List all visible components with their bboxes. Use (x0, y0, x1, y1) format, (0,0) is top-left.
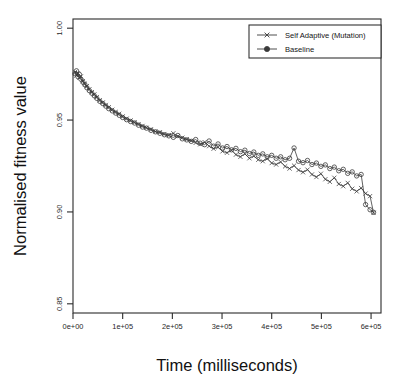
x-tick-label: 5e+05 (311, 322, 332, 331)
x-axis-title: Time (milliseconds) (156, 356, 298, 374)
y-axis-title: Normalised fitness value (11, 76, 29, 256)
x-tick-label: 3e+05 (212, 322, 233, 331)
legend-marker-circle-icon (264, 46, 269, 51)
y-tick-label: 0.85 (55, 297, 64, 311)
x-tick-label: 1e+05 (112, 322, 133, 331)
legend-item-label: Baseline (285, 45, 314, 54)
x-tick-label: 2e+05 (162, 322, 183, 331)
chart-figure: 0e+001e+052e+053e+054e+055e+056e+05 0.85… (0, 0, 405, 382)
y-tick-label: 0.95 (55, 113, 64, 127)
y-tick-label: 0.90 (55, 205, 64, 219)
chart-legend: Self Adaptive (Mutation)Baseline (249, 25, 381, 58)
x-tick-label: 0e+00 (63, 322, 84, 331)
y-tick-label: 1.00 (55, 21, 64, 35)
fitness-vs-time-line-chart: 0e+001e+052e+053e+054e+055e+056e+05 0.85… (0, 0, 405, 382)
x-tick-label: 6e+05 (361, 322, 382, 331)
x-tick-label: 4e+05 (261, 322, 282, 331)
legend-item-label: Self Adaptive (Mutation) (285, 31, 366, 40)
